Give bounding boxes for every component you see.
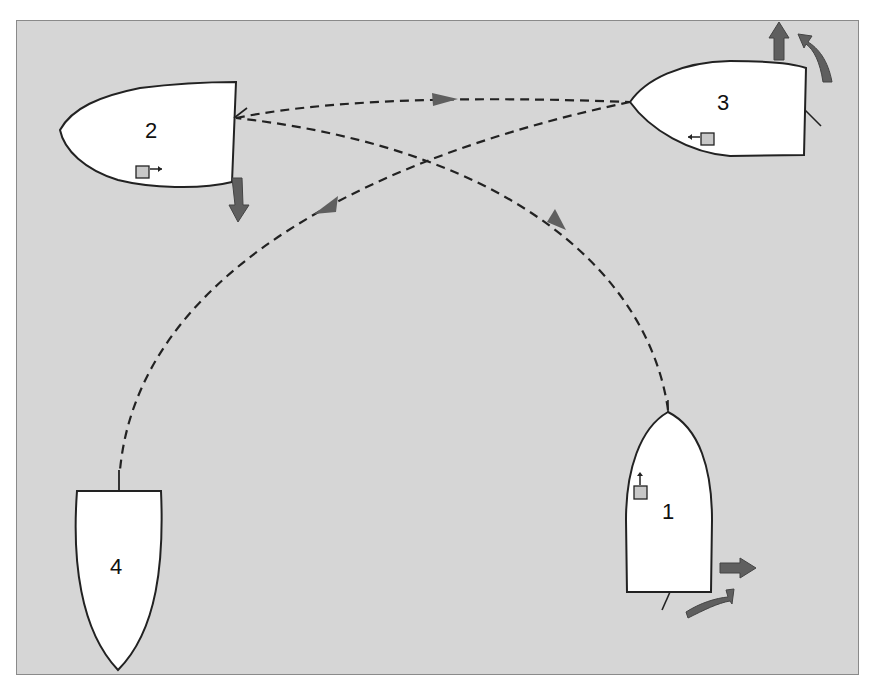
- triangle-arrow-icon: [432, 93, 458, 106]
- direction-arrows: [314, 93, 566, 230]
- boat-4: 4: [76, 470, 162, 670]
- engine-icon: [634, 486, 647, 499]
- boat-label-1: 1: [662, 499, 674, 524]
- rudder-icon: [805, 110, 821, 126]
- engine-icon: [701, 133, 714, 145]
- path-1-to-2: [236, 118, 668, 410]
- triangle-arrow-icon: [314, 196, 338, 214]
- thrust-arrow-up-icon: [769, 22, 789, 60]
- boat-1: 1: [626, 400, 756, 618]
- maneuver-diagram: 2 3 1 4: [0, 0, 878, 693]
- boat-3: 3: [630, 22, 832, 156]
- turn-arrow-icon: [686, 589, 734, 618]
- boat-2: 2: [60, 82, 249, 222]
- boat-label-4: 4: [110, 554, 122, 579]
- boat-label-3: 3: [717, 90, 729, 115]
- boat-label-2: 2: [145, 118, 157, 143]
- engine-icon: [136, 166, 149, 178]
- triangle-arrow-icon: [547, 209, 566, 230]
- rudder-icon: [662, 592, 670, 610]
- thrust-arrow-right-icon: [720, 558, 756, 578]
- thrust-arrow-down-icon: [229, 178, 249, 222]
